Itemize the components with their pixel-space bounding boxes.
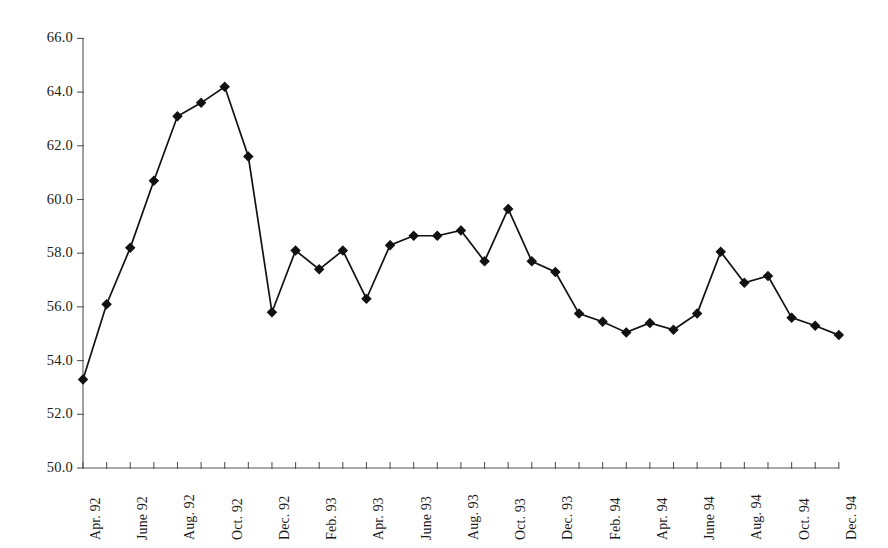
x-tick-label: June 92	[135, 496, 151, 540]
data-point-marker	[598, 317, 607, 326]
data-point-marker	[102, 300, 111, 309]
plot-area	[0, 0, 888, 548]
data-point-marker	[811, 321, 820, 330]
x-tick-label: Apr. 92	[88, 497, 104, 540]
x-tick-label: Dec. 93	[560, 496, 576, 540]
data-point-marker	[149, 176, 158, 185]
x-tick-label: Feb. 93	[324, 497, 340, 540]
data-point-marker	[244, 152, 253, 161]
data-point-marker	[386, 241, 395, 250]
y-tick-label: 60.0	[18, 191, 73, 208]
data-point-marker	[409, 231, 418, 240]
data-point-marker	[575, 309, 584, 318]
data-point-marker	[787, 313, 796, 322]
x-tick-label: Dec. 94	[844, 496, 860, 540]
data-point-marker	[834, 331, 843, 340]
axis-ticks	[77, 38, 839, 469]
data-point-marker	[527, 257, 536, 266]
data-point-marker	[362, 294, 371, 303]
data-point-marker	[504, 205, 513, 214]
y-tick-label: 54.0	[18, 352, 73, 369]
y-tick-label: 64.0	[18, 83, 73, 100]
data-point-marker	[126, 243, 135, 252]
data-point-marker	[645, 319, 654, 328]
x-tick-label: Feb. 94	[608, 497, 624, 540]
data-point-marker	[433, 231, 442, 240]
x-tick-label: June 94	[702, 496, 718, 540]
data-point-marker	[79, 375, 88, 384]
y-tick-label: 66.0	[18, 29, 73, 46]
x-tick-label: Oct. 92	[230, 498, 246, 540]
data-point-marker	[268, 308, 277, 317]
data-point-marker	[622, 328, 631, 337]
y-tick-label: 52.0	[18, 405, 73, 422]
x-tick-label: Oct. 93	[513, 498, 529, 540]
x-tick-label: June 93	[419, 496, 435, 540]
line-chart: 50.052.054.056.058.060.062.064.066.0 Apr…	[0, 0, 888, 548]
data-point-marker	[173, 112, 182, 121]
x-tick-label: Aug. 94	[749, 494, 765, 540]
x-tick-label: Oct. 94	[797, 498, 813, 540]
y-tick-label: 50.0	[18, 459, 73, 476]
y-tick-label: 56.0	[18, 298, 73, 315]
x-tick-label: Aug. 93	[466, 494, 482, 540]
data-point-marker	[551, 268, 560, 277]
data-point-marker	[764, 272, 773, 281]
x-tick-label: Dec. 92	[277, 496, 293, 540]
y-tick-label: 62.0	[18, 137, 73, 154]
x-tick-label: Apr. 94	[655, 497, 671, 540]
y-tick-label: 58.0	[18, 244, 73, 261]
x-tick-label: Apr. 93	[371, 497, 387, 540]
data-point-markers	[79, 82, 844, 383]
x-tick-label: Aug. 92	[182, 494, 198, 540]
